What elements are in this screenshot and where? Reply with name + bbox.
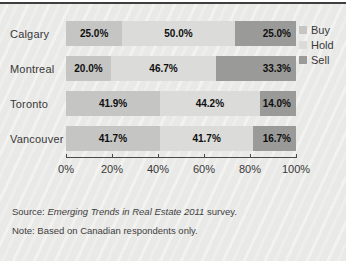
segment-buy: 41.7%	[66, 126, 160, 151]
segment-sell: 14.0%	[260, 91, 296, 116]
buy-swatch-icon	[299, 26, 307, 34]
legend-label: Sell	[311, 54, 329, 66]
category-label: Vancouver	[10, 133, 66, 145]
category-label: Calgary	[10, 28, 66, 40]
segment-hold: 50.0%	[122, 21, 235, 46]
legend-item-hold: Hold	[299, 39, 334, 51]
x-axis	[66, 157, 296, 158]
category-label: Montreal	[10, 63, 66, 75]
segment-hold: 44.2%	[160, 91, 259, 116]
bar-row-toronto: Toronto 41.9% 44.2% 14.0%	[10, 91, 296, 116]
segment-sell: 16.7%	[253, 126, 296, 151]
segment-sell: 25.0%	[235, 21, 296, 46]
bar-row-calgary: Calgary 25.0% 50.0% 25.0%	[10, 21, 296, 46]
legend-label: Buy	[311, 24, 330, 36]
axis-tick	[158, 154, 159, 158]
note-line: Note: Based on Canadian respondents only…	[12, 221, 237, 240]
source-title: Emerging Trends in Real Estate 2011	[47, 206, 204, 217]
segment-buy: 41.9%	[66, 91, 160, 116]
legend: Buy Hold Sell	[299, 24, 334, 69]
stacked-bar: 20.0% 46.7% 33.3%	[66, 56, 296, 81]
legend-item-sell: Sell	[299, 54, 334, 66]
segment-hold: 41.7%	[160, 126, 254, 151]
source-prefix: Source:	[12, 206, 47, 217]
tick-label: 100%	[282, 163, 310, 175]
x-axis-labels: 0% 20% 40% 60% 80% 100%	[66, 163, 296, 177]
axis-tick	[296, 154, 297, 158]
stacked-bar: 41.7% 41.7% 16.7%	[66, 126, 296, 151]
stacked-bar: 25.0% 50.0% 25.0%	[66, 21, 296, 46]
segment-hold: 46.7%	[111, 56, 216, 81]
bar-row-montreal: Montreal 20.0% 46.7% 33.3%	[10, 56, 296, 81]
axis-tick	[66, 154, 67, 158]
axis-tick	[112, 154, 113, 158]
category-label: Toronto	[10, 98, 66, 110]
chart-figure: Calgary 25.0% 50.0% 25.0% Montreal 20.0%…	[0, 0, 346, 261]
sell-swatch-icon	[299, 56, 307, 64]
tick-label: 60%	[193, 163, 215, 175]
segment-buy: 20.0%	[66, 56, 111, 81]
legend-item-buy: Buy	[299, 24, 334, 36]
axis-tick	[204, 154, 205, 158]
tick-label: 20%	[101, 163, 123, 175]
source-line: Source: Emerging Trends in Real Estate 2…	[12, 202, 237, 221]
bar-row-vancouver: Vancouver 41.7% 41.7% 16.7%	[10, 126, 296, 151]
segment-sell: 33.3%	[216, 56, 296, 81]
tick-label: 40%	[147, 163, 169, 175]
tick-label: 0%	[58, 163, 74, 175]
footer: Source: Emerging Trends in Real Estate 2…	[12, 202, 237, 240]
axis-tick	[250, 154, 251, 158]
top-rule	[0, 2, 346, 4]
legend-label: Hold	[311, 39, 334, 51]
stacked-bar: 41.9% 44.2% 14.0%	[66, 91, 296, 116]
tick-label: 80%	[239, 163, 261, 175]
segment-buy: 25.0%	[66, 21, 122, 46]
stacked-bar-chart: Calgary 25.0% 50.0% 25.0% Montreal 20.0%…	[10, 21, 296, 161]
hold-swatch-icon	[299, 41, 307, 49]
source-suffix: survey.	[204, 206, 237, 217]
